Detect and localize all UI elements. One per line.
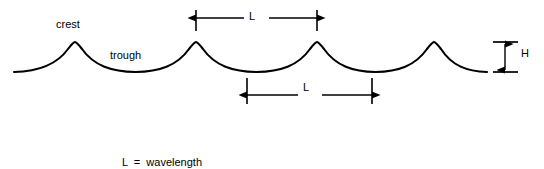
trough-label: trough [110,50,141,61]
wavelength-dimension-bottom [247,78,372,104]
wave-height-label: H [521,48,529,59]
wavelength-dimension-top [196,10,317,31]
legend-item-wavelength: L = wavelength [122,155,207,169]
crest-label: crest [56,19,80,30]
wave-diagram-graphic [0,0,544,169]
wave-height-dimension [493,42,518,72]
legend: L = wavelength H = wave height [122,127,207,169]
wavelength-label-top: L [249,11,255,22]
wavelength-label-bottom: L [303,82,309,93]
wave-profile-curve [14,42,487,72]
wave-diagram: crest trough L L H L = wavelength H = wa… [0,0,544,169]
